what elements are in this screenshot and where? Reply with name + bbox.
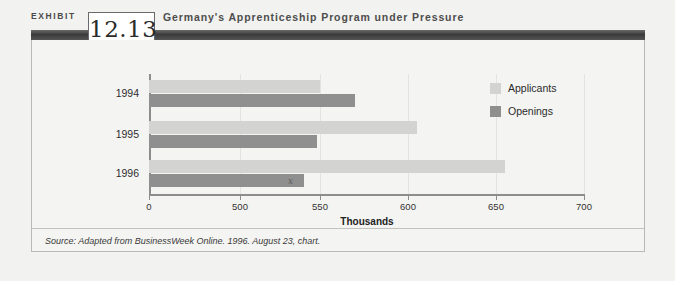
source-divider [32, 228, 644, 229]
exhibit-header: EXHIBIT Germany's Apprenticeship Program… [0, 0, 675, 44]
exhibit-body-panel [31, 40, 645, 252]
exhibit-label: EXHIBIT [31, 11, 76, 21]
exhibit-title: Germany's Apprenticeship Program under P… [163, 11, 464, 23]
source-note: Source: Adapted from BusinessWeek Online… [45, 236, 320, 246]
exhibit-number: 12.13 [89, 16, 156, 42]
exhibit-figure: EXHIBIT Germany's Apprenticeship Program… [0, 0, 675, 281]
